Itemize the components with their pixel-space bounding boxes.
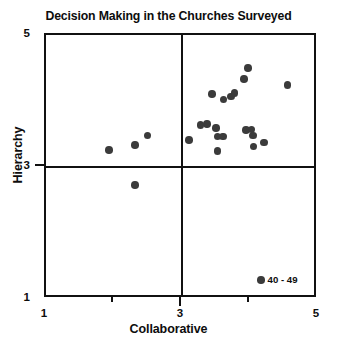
x-axis-tick — [111, 297, 113, 302]
data-point — [214, 133, 222, 141]
data-point — [208, 90, 216, 98]
data-points-layer — [46, 35, 314, 295]
data-point — [185, 136, 193, 144]
data-point — [214, 147, 222, 155]
data-point — [131, 141, 139, 149]
data-point — [260, 139, 268, 147]
data-point — [244, 64, 252, 72]
x-axis-tick-label: 3 — [170, 307, 190, 319]
data-point — [240, 75, 248, 83]
y-axis-tick-label: 5 — [14, 27, 30, 39]
y-axis-tick-label: 1 — [14, 291, 30, 303]
chart-legend: 40 - 49 — [257, 275, 297, 285]
quadrant-divider-horizontal — [46, 166, 314, 168]
y-axis-label: Hierarchy — [11, 90, 25, 220]
data-point — [144, 132, 152, 140]
quadrant-divider-vertical — [181, 35, 183, 295]
chart-title: Decision Making in the Churches Surveyed — [0, 8, 337, 24]
x-axis-tick — [179, 297, 181, 306]
data-point — [284, 81, 292, 89]
data-point — [250, 143, 258, 151]
data-point — [220, 96, 228, 104]
scatter-chart-figure: Decision Making in the Churches Surveyed… — [0, 0, 337, 346]
plot-area — [44, 33, 316, 297]
data-point — [231, 89, 239, 97]
data-point — [197, 121, 205, 129]
x-axis-label: Collaborative — [0, 322, 337, 336]
x-axis-tick-label: 1 — [34, 307, 54, 319]
data-point — [242, 126, 250, 134]
data-point — [227, 93, 235, 101]
data-point — [249, 132, 257, 140]
data-point — [212, 124, 220, 132]
legend-marker-icon — [257, 276, 265, 284]
legend-label: 40 - 49 — [268, 275, 298, 285]
data-point — [203, 120, 211, 128]
x-axis-tick — [247, 297, 249, 302]
x-axis-tick-label: 5 — [306, 307, 326, 319]
y-axis-tick — [35, 164, 44, 166]
data-point — [248, 126, 256, 134]
data-point — [105, 146, 113, 154]
data-point — [131, 181, 139, 189]
data-point — [219, 133, 227, 141]
